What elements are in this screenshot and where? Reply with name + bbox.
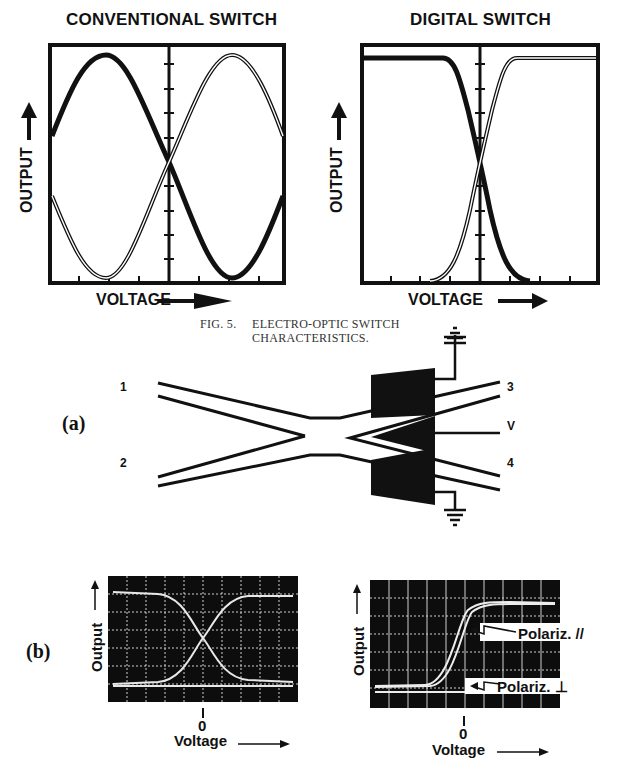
right-zero-label: 0 [459,725,467,742]
port-1: 1 [120,380,127,394]
digital-ylabel: OUTPUT [328,147,346,213]
panel-label-b: (b) [26,640,50,663]
digital-xlabel: VOLTAGE [408,291,483,309]
right-y-arrow [352,584,372,624]
left-x-arrow [238,737,298,751]
oscilloscope-left [108,576,308,706]
right-x-arrow [497,745,557,759]
right-scope-ylabel: Output [350,627,367,676]
top-electrode [371,368,435,418]
left-scope-ylabel: Output [88,623,105,672]
left-scope-xlabel: Voltage [174,732,227,749]
port-3: 3 [507,380,514,394]
digital-switch-plot [0,0,620,320]
directional-coupler-diagram [0,340,620,540]
ground-symbol-top [440,326,470,346]
port-4: 4 [507,456,514,470]
port-2: 2 [120,456,127,470]
legend-arrows [470,620,530,700]
center-electrode [371,416,435,453]
figure-caption-line1: ELECTRO-OPTIC SWITCH [252,317,400,331]
left-y-arrow [90,580,110,620]
right-scope-xlabel: Voltage [432,741,485,758]
port-v: V [507,419,515,433]
figure-caption-label: FIG. 5. [200,317,236,331]
